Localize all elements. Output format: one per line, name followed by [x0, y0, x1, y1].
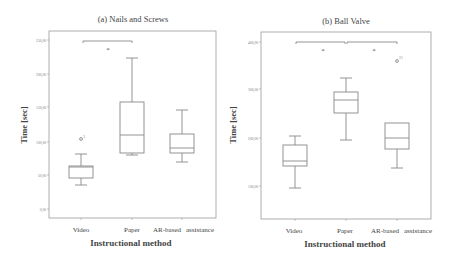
y-tick-label: 100,00	[36, 141, 46, 146]
outlier-label: 3	[83, 134, 85, 139]
outlier-marker	[80, 138, 83, 141]
x-category-label: Paper	[124, 226, 141, 234]
y-tick-label: 200,00	[248, 137, 258, 142]
y-tick-label: 200,00	[36, 73, 46, 78]
chart-ball-valve: (b) Ball Valve 400,00 300,00 200,00 100,…	[228, 16, 432, 249]
box-ar-based-assistance	[385, 60, 409, 168]
y-tick-label: 150,00	[36, 106, 46, 111]
chart-title: (a) Nails and Screws	[98, 14, 169, 24]
significance-star: *	[372, 47, 376, 55]
significance-bracket	[83, 41, 132, 43]
chart-title: (b) Ball Valve	[322, 16, 370, 26]
significance-star: *	[321, 47, 325, 55]
y-tick-label: 250,00	[36, 39, 46, 44]
chart-nails-and-screws: (a) Nails and Screws 250,00 200,00 150,0…	[19, 14, 216, 248]
y-tick-label: 300,00	[248, 88, 258, 93]
x-category-label: AR-based	[153, 226, 181, 234]
x-category-label: assistance	[404, 227, 432, 235]
outlier-marker	[396, 60, 399, 63]
y-tick-label: 100,00	[248, 185, 258, 190]
y-axis-label: Time [sec]	[228, 106, 238, 144]
y-axis-label: Time [sec]	[19, 106, 29, 144]
x-category-label: AR-based	[371, 227, 399, 235]
x-category-label: Video	[73, 226, 90, 234]
y-tick-label: 50,00	[38, 174, 46, 179]
x-axis-label: Instructional method	[304, 239, 385, 249]
significance-star: *	[106, 46, 110, 54]
box-paper	[120, 58, 144, 155]
box-video	[69, 138, 93, 185]
significance-bracket	[296, 42, 345, 44]
box-ar-based-assistance	[170, 110, 194, 162]
x-category-label: Video	[286, 227, 303, 235]
outlier-label: 21	[399, 55, 403, 60]
x-axis-label: Instructional method	[90, 238, 171, 248]
significance-bracket	[347, 42, 397, 44]
y-tick-label: 400,00	[248, 41, 258, 46]
x-category-label: assistance	[186, 226, 214, 234]
x-category-label: Paper	[337, 227, 354, 235]
y-tick-label: 0,00	[40, 208, 46, 213]
box-paper	[334, 78, 358, 140]
box-video	[283, 136, 307, 188]
figure: (a) Nails and Screws 250,00 200,00 150,0…	[0, 0, 451, 263]
